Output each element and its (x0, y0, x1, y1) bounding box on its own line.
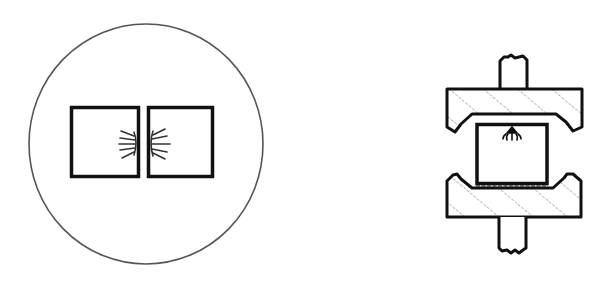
right-square-specimen (149, 108, 213, 177)
diagram-canvas (0, 0, 604, 288)
top-shaft (500, 55, 527, 88)
right-figure (447, 55, 582, 253)
bottom-shaft (499, 217, 526, 253)
left-figure (29, 24, 263, 264)
enclosing-circle (29, 24, 263, 264)
left-square-specimen (72, 108, 139, 177)
right-radiating-marks-icon (151, 129, 170, 159)
left-radiating-marks-icon (119, 131, 136, 158)
